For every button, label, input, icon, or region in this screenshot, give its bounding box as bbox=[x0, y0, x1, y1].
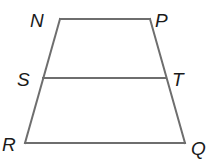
segment-RN bbox=[25, 19, 60, 143]
vertex-label-T: T bbox=[172, 69, 185, 90]
vertex-label-Q: Q bbox=[191, 138, 206, 159]
vertex-label-P: P bbox=[155, 10, 168, 31]
vertex-label-N: N bbox=[30, 10, 44, 31]
trapezoid-diagram: N P S T R Q bbox=[0, 0, 213, 166]
vertex-label-S: S bbox=[17, 69, 30, 90]
vertex-label-R: R bbox=[2, 134, 16, 155]
